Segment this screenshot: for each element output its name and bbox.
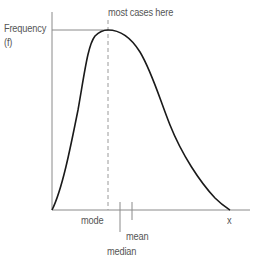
x-axis-label: x xyxy=(227,214,231,226)
median-label: median xyxy=(107,245,136,257)
y-axis-label-frequency: Frequency xyxy=(4,22,46,34)
y-axis-label-f: (f) xyxy=(4,36,12,48)
mode-label: mode xyxy=(81,214,103,226)
distribution-curve xyxy=(52,30,230,210)
peak-annotation: most cases here xyxy=(108,6,173,18)
mean-label: mean xyxy=(126,230,148,242)
skewed-distribution-diagram xyxy=(0,0,253,260)
